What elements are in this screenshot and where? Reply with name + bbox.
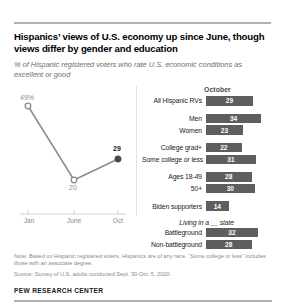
bar-value: 28 [225, 241, 232, 248]
panel-divider [136, 86, 137, 216]
bar-fill: 29 [206, 96, 253, 106]
bar-value: 30 [227, 185, 234, 192]
chart-body: 49% 20 29 Jan June Oct October All Hispa… [14, 86, 271, 234]
bar-row-ages-18-49: Ages 18-49 28 [142, 172, 271, 182]
top-rule [14, 22, 271, 24]
bar-column-header: October [204, 86, 271, 93]
page-subtitle: % of Hispanic registered voters who rate… [14, 60, 271, 79]
bar-track: 28 [206, 172, 271, 182]
bar-value: 29 [226, 97, 233, 104]
bar-group-title-state: Living in a __ state [142, 219, 238, 226]
line-chart-axis-label-oct: Oct [103, 217, 133, 224]
bar-value: 23 [221, 127, 228, 134]
bar-track: 32 [206, 228, 271, 238]
line-chart-label-jan: 49% [20, 94, 34, 101]
bar-track: 28 [206, 240, 271, 250]
bar-label: Biden supporters [142, 203, 206, 210]
bar-row-women: Women 23 [142, 125, 271, 135]
bar-value: 31 [227, 156, 234, 163]
bar-value: 32 [228, 229, 235, 236]
bar-track: 29 [206, 96, 271, 106]
bar-fill: 14 [206, 201, 229, 211]
bar-fill: 28 [206, 172, 252, 182]
bar-fill: 23 [206, 125, 243, 135]
line-chart-point-june [71, 178, 77, 184]
bar-fill: 32 [206, 228, 258, 238]
bottom-rule [14, 300, 272, 302]
bar-track: 14 [206, 201, 271, 211]
bar-label: Some college or less [142, 156, 206, 163]
bar-label: Women [142, 127, 206, 134]
line-chart-point-oct [115, 156, 121, 162]
bar-chart: October All Hispanic RVs 29 Men 34 [142, 86, 271, 250]
footer-brand: PEW RESEARCH CENTER [14, 287, 103, 294]
bar-track: 31 [206, 155, 271, 165]
bar-row-battleground: Battleground 32 [142, 228, 271, 238]
chart-source: Source: Survey of U.S. adults conducted … [14, 271, 272, 278]
bar-row-some-college-or-less: Some college or less 31 [142, 154, 271, 164]
bar-fill: 30 [206, 184, 255, 194]
bar-row-all-hispanic-rvs: All Hispanic RVs 29 [142, 96, 271, 106]
bar-value: 34 [230, 115, 237, 122]
chart-page: Hispanics’ views of U.S. economy up sinc… [0, 22, 285, 306]
bar-track: 30 [206, 184, 271, 194]
line-chart-label-june: 20 [69, 184, 77, 191]
bar-fill: 31 [206, 155, 256, 165]
line-chart-point-jan [25, 104, 31, 110]
line-chart-axis-label-jan: Jan [14, 217, 44, 224]
line-chart-series [28, 106, 118, 180]
bar-row-biden-supporters: Biden supporters 14 [142, 201, 271, 211]
bar-fill: 22 [206, 143, 242, 153]
bar-fill: 28 [206, 240, 252, 250]
bar-label: Men [142, 115, 206, 122]
bar-fill: 34 [206, 114, 261, 124]
bar-label: Non-battleground [142, 241, 206, 248]
bar-row-50-plus: 50+ 30 [142, 183, 271, 193]
line-chart: 49% 20 29 Jan June Oct [14, 86, 132, 232]
line-chart-label-oct: 29 [113, 145, 121, 152]
bar-label: All Hispanic RVs [142, 97, 206, 104]
bar-value: 28 [225, 173, 232, 180]
bar-track: 34 [206, 114, 271, 124]
bar-row-college-grad: College grad+ 22 [142, 143, 271, 153]
bar-label: College grad+ [142, 144, 206, 151]
line-chart-axis-label-june: June [59, 217, 89, 224]
bar-track: 23 [206, 125, 271, 135]
bar-value: 22 [220, 144, 227, 151]
bar-row-non-battleground: Non-battleground 28 [142, 239, 271, 249]
page-title: Hispanics’ views of U.S. economy up sinc… [14, 31, 271, 55]
bar-label: Battleground [142, 229, 206, 236]
bar-value: 14 [214, 203, 221, 210]
bar-track: 22 [206, 143, 271, 153]
bar-label: Ages 18-49 [142, 173, 206, 180]
line-chart-svg [14, 86, 132, 232]
bar-row-men: Men 34 [142, 114, 271, 124]
bar-label: 50+ [142, 185, 206, 192]
chart-note: Note: Based on Hispanic registered voter… [14, 253, 272, 267]
